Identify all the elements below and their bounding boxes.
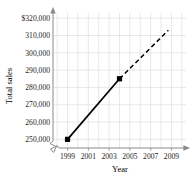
data-series-layer — [65, 30, 168, 142]
clipped-header-text — [10, 0, 190, 3]
y-axis-tick-label: 270,000 — [25, 100, 50, 109]
x-axis-tick-label: 2007 — [143, 152, 158, 161]
x-axis-tick-label: 1999 — [60, 152, 75, 161]
x-axis-tick-labels: 199920012003200520072009 — [60, 152, 179, 161]
x-axis-arrowhead — [183, 145, 190, 150]
y-axis-tick-label: 280,000 — [25, 83, 50, 92]
data-point-marker — [65, 137, 70, 142]
x-axis-title: Year — [112, 164, 128, 174]
chart-svg: $320,000310,000300,000290,000280,000270,… — [0, 0, 193, 179]
y-axis-tick-label: 310,000 — [25, 31, 50, 40]
x-axis-tick-label: 2001 — [81, 152, 96, 161]
y-axis-tick-label: 260,000 — [25, 118, 50, 127]
sales-chart: $320,000310,000300,000290,000280,000270,… — [0, 0, 193, 179]
x-axis-tick-label: 2005 — [122, 152, 137, 161]
data-line — [68, 79, 120, 140]
y-axis-arrowhead — [50, 7, 55, 14]
y-axis-tick-labels: $320,000310,000300,000290,000280,000270,… — [22, 14, 51, 144]
y-axis-tick-label: 250,000 — [25, 135, 50, 144]
y-axis-tick-label: 290,000 — [25, 66, 50, 75]
x-axis-tick-label: 2009 — [164, 152, 179, 161]
y-axis-tick-label: $320,000 — [22, 14, 51, 23]
x-axis-tick-label: 2003 — [102, 152, 117, 161]
y-axis-title: Total sales — [4, 67, 14, 104]
y-axis-tick-label: 300,000 — [25, 49, 50, 58]
y-axis-break-symbol — [50, 141, 56, 149]
